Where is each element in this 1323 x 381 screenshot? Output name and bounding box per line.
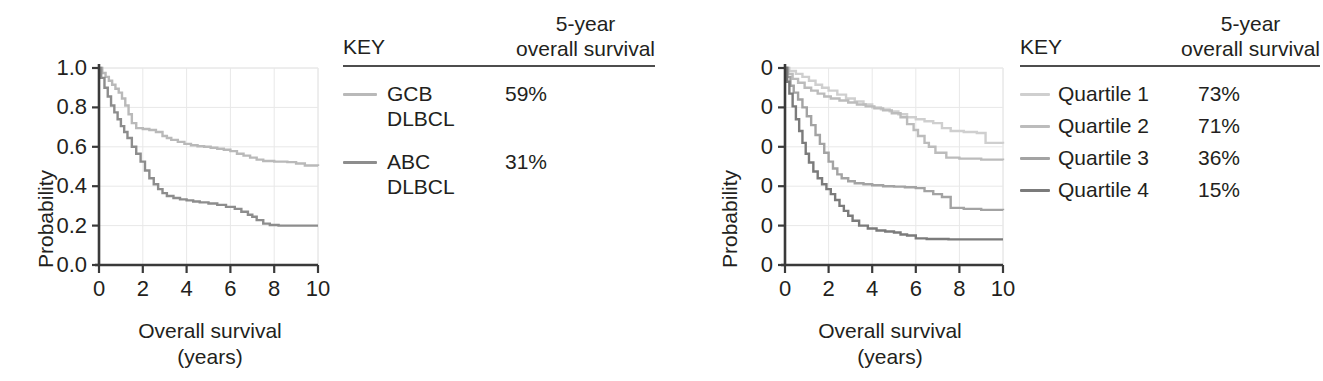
x-axis-tick-label: 10	[306, 276, 330, 300]
x-axis-tick-label: 6	[224, 276, 236, 300]
x-axis-tick-label: 4	[866, 276, 878, 300]
x-axis-title-line1: Overall survival	[138, 319, 282, 342]
legend-item-label: Quartile 1	[1058, 81, 1198, 106]
legend-key-right: KEY 5-year overall survival Quartile 173…	[1020, 5, 1320, 209]
legend-line-swatch	[1020, 157, 1050, 160]
y-axis-tick-label: 0.2	[56, 213, 87, 238]
legend-item-value: 31%	[505, 149, 547, 174]
legend-line-swatch	[343, 161, 377, 164]
legend-metric-line2: overall survival	[516, 37, 655, 60]
y-axis-tick-label: 0.8	[56, 94, 87, 119]
x-axis-tick-label: 10	[991, 276, 1015, 300]
survival-curve	[785, 68, 1003, 210]
x-axis-tick-label: 6	[910, 276, 922, 300]
figure-panel-right: 0000000246810 Probability Overall surviv…	[690, 0, 1323, 381]
legend-metric-line2: overall survival	[1181, 37, 1320, 60]
survival-curve	[99, 68, 318, 166]
legend-item-value: 71%	[1198, 113, 1240, 138]
x-axis-tick-label: 2	[822, 276, 834, 300]
legend-swatch-cell	[343, 149, 377, 164]
legend-swatch-cell	[1020, 177, 1050, 192]
figure-panel-left: 0.00.20.40.60.81.00246810 Probability Ov…	[0, 0, 670, 381]
legend-rows: GCB DLBCL59%ABC DLBCL31%	[343, 67, 655, 199]
y-axis-tick-label: 0	[761, 55, 773, 80]
x-axis-tick-label: 4	[180, 276, 192, 300]
legend-item-label: Quartile 4	[1058, 177, 1198, 202]
legend-item-value: 73%	[1198, 81, 1240, 106]
legend-line-swatch	[1020, 189, 1050, 192]
legend-item: Quartile 271%	[1020, 113, 1320, 138]
legend-key-title: KEY	[343, 35, 385, 59]
legend-item: ABC DLBCL31%	[343, 149, 655, 199]
legend-line-swatch	[1020, 125, 1050, 128]
y-axis-tick-label: 0	[761, 213, 773, 238]
legend-line-swatch	[343, 93, 377, 96]
x-axis-tick-label: 0	[779, 276, 791, 300]
x-axis-title-line2: (years)	[177, 345, 242, 368]
y-axis-tick-label: 0.4	[56, 173, 87, 198]
y-axis-tick-label: 0	[761, 173, 773, 198]
legend-swatch-cell	[1020, 113, 1050, 128]
legend-metric-title: 5-year overall survival	[1181, 11, 1320, 61]
legend-header: KEY 5-year overall survival	[343, 5, 655, 65]
y-axis-tick-label: 0	[761, 252, 773, 277]
legend-metric-line1: 5-year	[556, 12, 616, 35]
x-axis-tick-label: 8	[268, 276, 280, 300]
legend-swatch-cell	[343, 81, 377, 96]
x-axis-tick-label: 8	[953, 276, 965, 300]
y-axis-tick-label: 0.0	[56, 252, 87, 277]
legend-item: Quartile 173%	[1020, 81, 1320, 106]
legend-item-label: ABC DLBCL	[387, 149, 505, 199]
x-axis-title: Overall survival (years)	[75, 318, 345, 370]
legend-key-left: KEY 5-year overall survival GCB DLBCL59%…	[343, 5, 655, 217]
legend-swatch-cell	[1020, 145, 1050, 160]
legend-item: GCB DLBCL59%	[343, 81, 655, 131]
y-axis-tick-label: 0	[761, 94, 773, 119]
legend-item-value: 36%	[1198, 145, 1240, 170]
legend-item-label: Quartile 2	[1058, 113, 1198, 138]
legend-item: Quartile 336%	[1020, 145, 1320, 170]
x-axis-title-line1: Overall survival	[818, 319, 962, 342]
legend-rows: Quartile 173%Quartile 271%Quartile 336%Q…	[1020, 67, 1320, 202]
legend-metric-title: 5-year overall survival	[516, 11, 655, 61]
legend-swatch-cell	[1020, 81, 1050, 96]
x-axis-title-line2: (years)	[857, 345, 922, 368]
legend-key-title: KEY	[1020, 35, 1062, 59]
legend-item-label: Quartile 3	[1058, 145, 1198, 170]
y-axis-tick-label: 0.6	[56, 134, 87, 159]
survival-curve	[785, 68, 1003, 144]
legend-item-value: 59%	[505, 81, 547, 106]
legend-item-label: GCB DLBCL	[387, 81, 505, 131]
legend-header: KEY 5-year overall survival	[1020, 5, 1320, 65]
x-axis-title: Overall survival (years)	[755, 318, 1025, 370]
legend-metric-line1: 5-year	[1221, 12, 1281, 35]
x-axis-tick-label: 2	[137, 276, 149, 300]
y-axis-title: Probability	[34, 170, 58, 268]
legend-item: Quartile 415%	[1020, 177, 1320, 202]
x-axis-tick-label: 0	[93, 276, 105, 300]
y-axis-tick-label: 1.0	[56, 55, 87, 80]
legend-item-value: 15%	[1198, 177, 1240, 202]
legend-line-swatch	[1020, 93, 1050, 96]
y-axis-tick-label: 0	[761, 134, 773, 159]
y-axis-title: Probability	[718, 170, 742, 268]
